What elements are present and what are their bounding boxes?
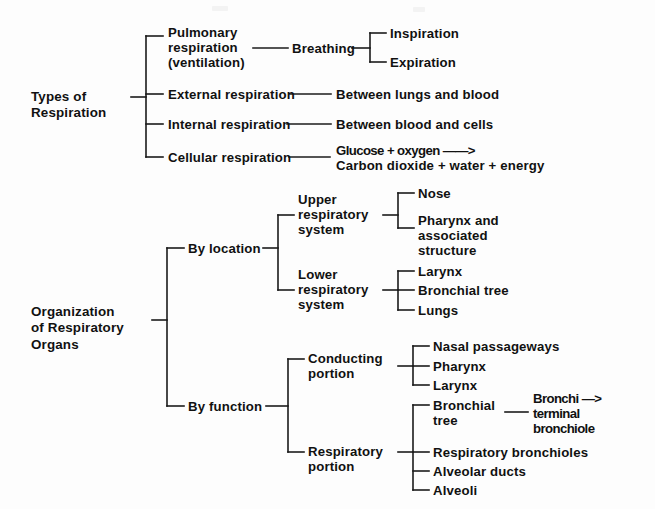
node-nasal-passageways: Nasal passageways [433,339,559,354]
node-respiratory-bronchioles: Respiratory bronchioles [433,445,588,460]
node-by-function: By function [188,399,262,414]
scan-artifact [413,7,425,12]
node-equation-reactants: Glucose + oxygen ——> [336,143,475,158]
node-bronchi-terminal-bronchiole: Bronchi —> terminal bronchiole [533,391,601,437]
node-internal-respiration: Internal respiration [168,117,290,132]
scan-artifact [212,6,228,11]
node-organization-of-respiratory-organs: Organization of Respiratory Organs [31,304,124,353]
node-upper-respiratory-system: Upper respiratory system [298,192,369,238]
node-between-lungs-and-blood: Between lungs and blood [336,87,499,102]
node-cellular-respiration: Cellular respiration [168,150,291,165]
node-pharynx-conducting: Pharynx [433,359,486,374]
node-larynx-lower: Larynx [418,264,462,279]
node-respiratory-portion: Respiratory portion [308,444,383,474]
node-equation-products: Carbon dioxide + water + energy [336,158,544,173]
node-external-respiration: External respiration [168,87,295,102]
node-bronchial-tree-lower: Bronchial tree [418,283,509,298]
node-breathing: Breathing [292,41,355,56]
node-between-blood-and-cells: Between blood and cells [336,117,493,132]
node-bronchial-tree-respiratory: Bronchial tree [433,398,495,428]
node-larynx-conducting: Larynx [433,378,477,393]
node-types-of-respiration: Types of Respiration [31,89,106,122]
node-pulmonary-respiration: Pulmonary respiration (ventilation) [168,25,245,71]
node-nose: Nose [418,186,451,201]
node-pharynx-and-associated-structure: Pharynx and associated structure [418,213,499,259]
node-alveoli: Alveoli [433,483,477,498]
node-lower-respiratory-system: Lower respiratory system [298,267,369,313]
respiration-diagram: Types of Respiration Pulmonary respirati… [0,0,655,509]
node-lungs: Lungs [418,303,458,318]
node-alveolar-ducts: Alveolar ducts [433,464,526,479]
node-by-location: By location [188,241,261,256]
node-expiration: Expiration [390,55,456,70]
node-conducting-portion: Conducting portion [308,351,383,381]
node-inspiration: Inspiration [390,26,459,41]
